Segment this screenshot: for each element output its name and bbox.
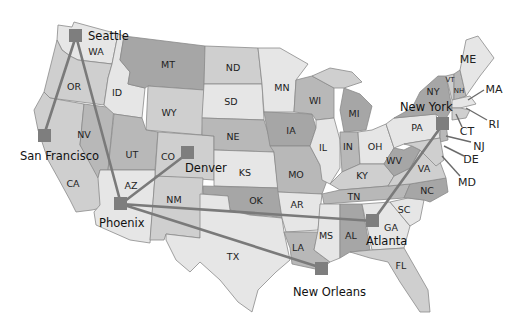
label-id: ID [112,87,122,98]
state-ar [278,192,322,232]
label-ga: GA [384,222,398,233]
label-de: DE [463,153,478,166]
label-tx: TX [226,251,240,262]
label-ny: NY [427,86,440,97]
label-nv: NV [77,129,91,140]
label-fl: FL [396,260,407,271]
label-mn: MN [274,82,289,93]
us-route-map: WA OR CA ID NV UT AZ MT WY CO NM ND SD N… [0,0,513,336]
label-nj: NJ [473,140,484,153]
hub-new-york[interactable] [436,117,449,130]
label-nc: NC [420,185,434,196]
label-nm: NM [166,194,181,205]
city-label-seattle: Seattle [88,29,129,43]
hub-denver[interactable] [181,146,194,159]
hub-new-orleans[interactable] [315,262,328,275]
label-wa: WA [88,46,104,57]
label-ri: RI [489,118,500,131]
label-va: VA [418,163,431,174]
label-il: IL [319,142,328,153]
label-pa: PA [411,122,423,133]
label-mt: MT [161,59,175,70]
state-ct-ri [452,108,470,120]
label-ca: CA [66,178,80,189]
city-label-phoenix: Phoenix [99,216,145,230]
label-nd: ND [226,62,240,73]
label-oh: OH [368,141,383,152]
label-ma: MA [485,83,502,96]
label-tn: TN [347,191,361,202]
label-sd: SD [224,96,237,107]
city-label-atlanta: Atlanta [366,234,407,248]
label-la: LA [292,242,305,253]
state-ny [394,76,452,122]
city-label-new-york: New York [400,100,453,114]
hub-san-francisco[interactable] [38,129,51,142]
label-ut: UT [126,149,139,160]
label-ky: KY [356,170,368,181]
label-al: AL [345,230,357,241]
hub-atlanta[interactable] [366,214,379,227]
city-label-denver: Denver [185,161,227,175]
label-ok: OK [249,195,263,206]
label-vt: VT [445,76,455,84]
city-label-new-orleans: New Orleans [293,285,366,299]
label-in: IN [343,141,353,152]
label-co: CO [161,151,175,162]
label-sc: SC [398,204,411,215]
label-wi: WI [309,95,321,106]
label-wy: WY [161,107,176,118]
state-fl [350,248,430,312]
label-mi: MI [349,108,360,119]
label-ar: AR [290,199,303,210]
label-ct: CT [460,125,475,138]
label-nh: NH [454,87,465,95]
label-md: MD [458,176,476,189]
label-mo: MO [288,169,304,180]
label-ms: MS [319,230,333,241]
label-ia: IA [286,125,296,136]
city-label-san-francisco: San Francisco [20,149,99,163]
label-or: OR [67,81,81,92]
hub-phoenix[interactable] [114,197,127,210]
label-az: AZ [124,180,137,191]
label-me: ME [460,53,476,66]
label-wv: WV [386,155,402,166]
label-ne: NE [226,131,239,142]
label-ks: KS [239,167,251,178]
hub-seattle[interactable] [69,29,82,42]
